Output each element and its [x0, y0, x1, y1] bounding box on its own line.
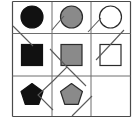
puzzle-canvas — [0, 0, 138, 126]
cell-r2c3-square — [100, 45, 121, 66]
cell-r2c2-square — [61, 45, 82, 66]
cell-r1c3-circle — [100, 6, 122, 28]
matrix-puzzle-figure — [0, 0, 138, 126]
cell-r2c1-square — [22, 45, 43, 66]
cell-r1c1-circle — [21, 6, 43, 28]
